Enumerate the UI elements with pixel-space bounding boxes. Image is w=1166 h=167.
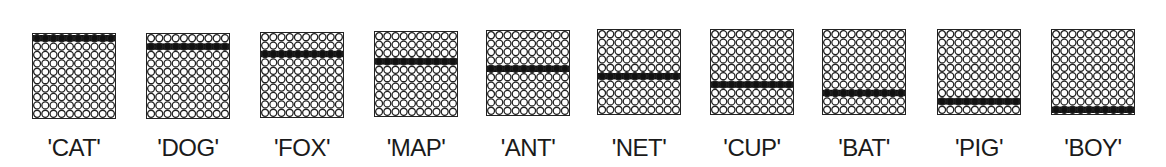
word-label: 'FOX' bbox=[246, 134, 358, 162]
circle-grid bbox=[374, 31, 458, 117]
word-label: 'ANT' bbox=[472, 134, 584, 162]
circle-grid bbox=[1051, 29, 1135, 115]
panel-ant: 'ANT' bbox=[472, 0, 584, 167]
panel-fox: 'FOX' bbox=[246, 0, 358, 167]
panel-net: 'NET' bbox=[583, 0, 695, 167]
word-label: 'BAT' bbox=[808, 134, 920, 162]
panel-bat: 'BAT' bbox=[808, 0, 920, 167]
circle-grid bbox=[822, 29, 906, 115]
circle-grid bbox=[486, 30, 570, 116]
panel-cat: 'CAT' bbox=[18, 0, 130, 167]
panel-cup: 'CUP' bbox=[696, 0, 808, 167]
circle-grid bbox=[146, 33, 230, 119]
circle-grid bbox=[937, 29, 1021, 115]
word-label: 'DOG' bbox=[132, 134, 244, 162]
word-label: 'CUP' bbox=[696, 134, 808, 162]
word-label: 'MAP' bbox=[360, 134, 472, 162]
word-label: 'CAT' bbox=[18, 134, 130, 162]
circle-grid bbox=[32, 33, 116, 119]
panel-map: 'MAP' bbox=[360, 0, 472, 167]
circle-grid bbox=[260, 32, 344, 118]
word-label: 'PIG' bbox=[923, 134, 1035, 162]
word-label: 'NET' bbox=[583, 134, 695, 162]
panel-dog: 'DOG' bbox=[132, 0, 244, 167]
panel-pig: 'PIG' bbox=[923, 0, 1035, 167]
circle-grid bbox=[710, 29, 794, 115]
panel-boy: 'BOY' bbox=[1037, 0, 1149, 167]
circle-grid bbox=[597, 29, 681, 115]
word-label: 'BOY' bbox=[1037, 134, 1149, 162]
